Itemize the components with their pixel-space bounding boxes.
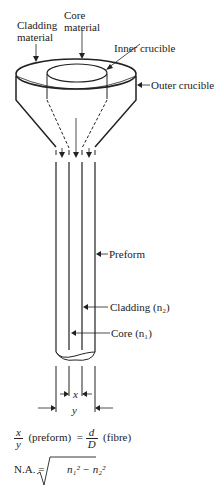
label-line: Cladding bbox=[17, 19, 57, 31]
denominator: y bbox=[14, 439, 23, 450]
preform-rod bbox=[56, 162, 95, 352]
label-dim-x: x bbox=[73, 388, 78, 400]
fraction-x-over-y: x y bbox=[14, 427, 23, 450]
label-preform: Preform bbox=[109, 248, 145, 260]
label-outer-crucible: Outer crucible bbox=[151, 79, 214, 91]
na-radicand: n₁² − n₂² bbox=[67, 463, 105, 475]
preform-note: (preform) bbox=[28, 431, 71, 443]
denominator: D bbox=[86, 439, 98, 450]
label-dim-y: y bbox=[72, 404, 77, 416]
label-cladding-material: Cladding material bbox=[17, 19, 57, 43]
inner-crucible-wall bbox=[47, 100, 107, 148]
na-lhs: N.A. = bbox=[14, 463, 44, 475]
equals-sign: = bbox=[77, 431, 83, 443]
equation-na: N.A. = n₁² − n₂² bbox=[14, 463, 105, 475]
equation-ratio: x y (preform) = d D (fibre) bbox=[14, 427, 131, 450]
label-line: Core bbox=[64, 9, 100, 21]
label-line: material bbox=[17, 31, 57, 43]
label-core-material: Core material bbox=[64, 9, 100, 33]
label-line: material bbox=[64, 21, 100, 33]
fraction-d-over-D: d D bbox=[86, 427, 98, 450]
label-cladding: Cladding (n₂) bbox=[110, 301, 170, 313]
label-inner-crucible: Inner crucible bbox=[114, 42, 175, 54]
inner-crucible-rim bbox=[47, 64, 107, 82]
fibre-note: (fibre) bbox=[103, 431, 131, 443]
label-core: Core (n₁) bbox=[111, 327, 152, 339]
